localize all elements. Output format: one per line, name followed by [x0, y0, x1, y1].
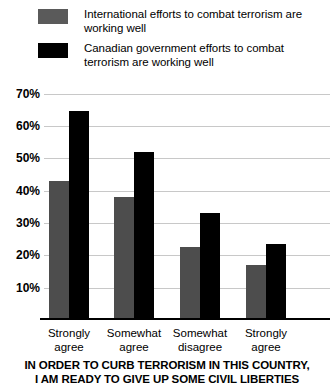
y-axis-tick-label: 70% [16, 87, 40, 101]
bar-series-container [44, 84, 330, 320]
category-label-line-2: disagree [164, 340, 236, 354]
x-axis-category-label: Stronglyagree [230, 326, 302, 354]
bar-canadian [200, 213, 220, 320]
y-axis-tick-label: 20% [16, 248, 40, 262]
legend-item-canadian: Canadian government efforts to combat te… [38, 42, 330, 69]
category-label-line-1: Strongly [230, 326, 302, 340]
plot-area [44, 84, 330, 320]
bar-canadian [134, 152, 154, 320]
legend-item-international: International efforts to combat terroris… [38, 8, 330, 35]
chart-title-line-2: I AM READY TO GIVE UP SOME CIVIL LIBERTI… [0, 372, 334, 386]
bar-international [180, 247, 200, 320]
x-axis-category-label: Stronglyagree [33, 326, 105, 354]
y-axis-tick-label: 40% [16, 184, 40, 198]
bar-group [246, 84, 288, 320]
chart-title-line-1: IN ORDER TO CURB TERRORISM IN THIS COUNT… [0, 358, 334, 372]
x-axis-category-labels: StronglyagreeSomewhatagreeSomewhatdisagr… [44, 326, 330, 358]
chart-legend: International efforts to combat terroris… [38, 8, 330, 76]
y-axis-tick-label: 30% [16, 216, 40, 230]
category-label-line-2: agree [230, 340, 302, 354]
y-axis-tick-label: 60% [16, 119, 40, 133]
bar-group [180, 84, 222, 320]
legend-swatch-gray-icon [38, 9, 68, 24]
chart-title: IN ORDER TO CURB TERRORISM IN THIS COUNT… [0, 358, 334, 386]
legend-label-international: International efforts to combat terroris… [84, 8, 330, 35]
legend-swatch-black-icon [38, 43, 68, 58]
category-label-line-1: Somewhat [164, 326, 236, 340]
category-label-line-1: Strongly [33, 326, 105, 340]
x-axis-category-label: Somewhatdisagree [164, 326, 236, 354]
bar-group [114, 84, 156, 320]
x-axis-baseline [40, 318, 330, 320]
y-axis-tick-label: 10% [16, 281, 40, 295]
x-axis-category-label: Somewhatagree [98, 326, 170, 354]
bar-international [49, 181, 69, 320]
bar-international [246, 265, 266, 320]
bar-international [114, 197, 134, 320]
bar-canadian [69, 111, 89, 320]
legend-label-canadian: Canadian government efforts to combat te… [84, 42, 330, 69]
category-label-line-1: Somewhat [98, 326, 170, 340]
y-axis-tick-label: 50% [16, 151, 40, 165]
category-label-line-2: agree [33, 340, 105, 354]
bar-group [49, 84, 91, 320]
bar-canadian [266, 244, 286, 320]
category-label-line-2: agree [98, 340, 170, 354]
y-axis-tick-labels: 10%20%30%40%50%60%70% [0, 84, 40, 320]
